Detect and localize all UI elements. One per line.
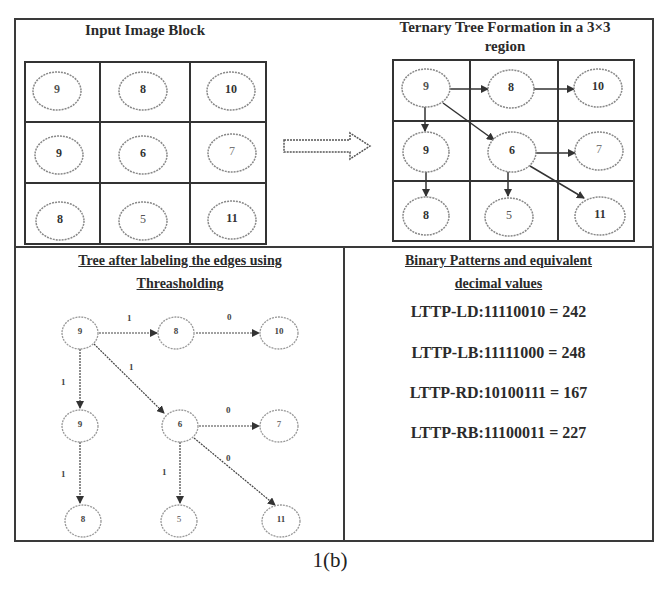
input-cell-r2c1: 5 [133, 212, 153, 227]
tree-node-c: 10 [270, 326, 288, 336]
tree-node-i: 11 [272, 514, 290, 524]
tree-node-g: 8 [75, 514, 91, 524]
ternary-cell-r0c2: 10 [588, 79, 608, 94]
binary-title-line2: decimal values [345, 272, 652, 295]
input-cell-r0c1: 8 [133, 82, 153, 97]
tree-node-b: 8 [168, 326, 184, 336]
ternary-title-line2: region [360, 37, 650, 56]
input-cell-r0c0: 9 [47, 82, 67, 97]
ternary-cell-r2c0: 8 [416, 208, 436, 223]
ternary-cell-r0c0: 9 [416, 79, 436, 94]
pattern-ltp-rb: LTTP-RB:11100011 = 227 [345, 424, 652, 442]
input-cell-r2c0: 8 [50, 212, 70, 227]
ternary-title: Ternary Tree Formation in a 3×3 region [360, 18, 650, 56]
ternary-cell-r1c0: 9 [416, 143, 436, 158]
ternary-title-line1: Ternary Tree Formation in a 3×3 [360, 18, 650, 37]
threshold-tree-title: Tree after labeling the edges using Thre… [20, 249, 340, 295]
threshold-title-line2: Threasholding [20, 272, 340, 295]
input-cell-r0c2: 10 [221, 82, 241, 97]
ternary-cell-r2c1: 5 [499, 208, 519, 223]
tree-node-e: 6 [172, 419, 188, 429]
edge-label-e-h: 1 [162, 467, 167, 477]
transform-arrow-icon [284, 133, 370, 159]
ternary-cell-r1c2: 7 [589, 142, 609, 157]
edge-label-e-f: 0 [226, 405, 231, 415]
tree-node-d: 9 [72, 419, 88, 429]
ternary-cell-r2c2: 11 [590, 207, 610, 222]
figure-caption: 1(b) [300, 548, 360, 573]
input-cell-r2c2: 11 [222, 211, 242, 226]
tree-node-f: 7 [271, 419, 287, 429]
binary-panel: Binary Patterns and equivalent decimal v… [345, 248, 652, 540]
input-cell-r1c2: 7 [222, 144, 242, 159]
edge-label-d-g: 1 [61, 469, 66, 479]
ternary-cell-r1c1: 6 [502, 143, 522, 158]
pattern-ltp-rd: LTTP-RD:10100111 = 167 [345, 384, 652, 402]
ternary-cell-r0c1: 8 [501, 80, 521, 95]
edge-label-a-d: 1 [61, 377, 66, 387]
threshold-title-line1: Tree after labeling the edges using [20, 249, 340, 272]
tree-node-a: 9 [72, 326, 88, 336]
input-cell-r1c0: 9 [49, 146, 69, 161]
pattern-ltp-ld: LTTP-LD:11110010 = 242 [345, 303, 652, 321]
edge-label-a-e: 1 [129, 362, 134, 372]
binary-title: Binary Patterns and equivalent decimal v… [345, 249, 652, 295]
edge-label-a-b: 1 [127, 313, 132, 323]
edge-label-e-i: 0 [226, 453, 231, 463]
tree-node-h: 5 [171, 514, 187, 524]
input-cell-r1c1: 6 [133, 146, 153, 161]
edge-label-b-c: 0 [227, 312, 232, 322]
binary-title-line1: Binary Patterns and equivalent [345, 249, 652, 272]
pattern-ltp-lb: LTTP-LB:11111000 = 248 [345, 344, 652, 362]
